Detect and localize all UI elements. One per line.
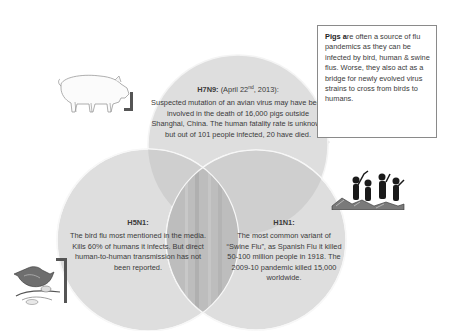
h1n1-text: H1N1: The most common variant of “Swine … [226, 218, 342, 283]
pig-icon [55, 70, 135, 115]
pigs-info-box: Pigs are often a source of flu pandemics… [317, 25, 437, 138]
people-icon [330, 168, 410, 210]
info-box-text: re often a source of flu pandemics as th… [325, 32, 430, 103]
h7n9-text: H7N9: (April 22nd, 2013): Suspected muta… [150, 85, 326, 140]
h5n1-title: H5N1: [68, 218, 208, 228]
venn-diagram: H7N9: (April 22nd, 2013): Suspected muta… [0, 0, 454, 331]
h5n1-text: H5N1: The bird flu most mentioned in the… [68, 218, 208, 273]
info-box-lead: Pigs a [325, 32, 347, 41]
h1n1-title: H1N1: [226, 218, 342, 228]
h1n1-body: The most common variant of “Swine Flu”, … [226, 231, 341, 282]
bird-icon-bracket [56, 258, 67, 303]
h7n9-body: Suspected mutation of an avian virus may… [151, 98, 325, 138]
pig-icon-bracket [124, 92, 133, 111]
h7n9-title: H7N9: (April 22nd, 2013): [150, 85, 326, 95]
h5n1-body: The bird flu most mentioned in the media… [70, 231, 206, 271]
